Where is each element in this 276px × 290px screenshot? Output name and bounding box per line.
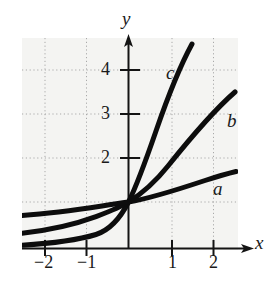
exponential-curves-figure: y x 4 3 2 −2 −1 1 2 a b c (0, 0, 276, 290)
y-axis-label: y (122, 8, 130, 30)
x-axis-label: x (255, 232, 263, 254)
curve-label-c: c (166, 62, 174, 84)
x-tick-label-minus2: −2 (34, 252, 53, 273)
y-tick-label-4: 4 (101, 59, 110, 80)
x-tick-label-minus1: −1 (77, 252, 96, 273)
plot-canvas (0, 0, 276, 290)
x-tick-label-1: 1 (168, 252, 177, 273)
y-tick-label-2: 2 (101, 147, 110, 168)
x-tick-label-2: 2 (209, 252, 218, 273)
curve-label-b: b (227, 110, 237, 132)
y-tick-label-3: 3 (101, 103, 110, 124)
curve-label-a: a (213, 178, 223, 200)
